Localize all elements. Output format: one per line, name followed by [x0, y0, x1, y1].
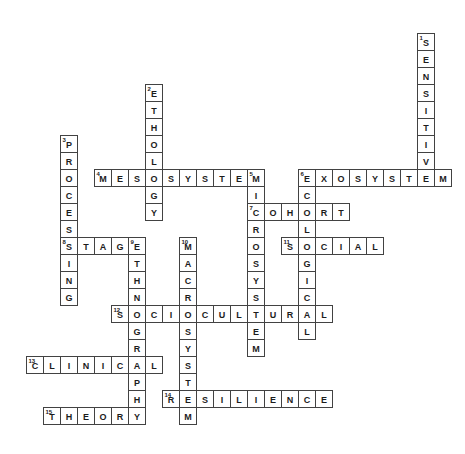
- grid-cell-r20c9[interactable]: T: [179, 373, 197, 391]
- grid-cell-r21c6[interactable]: H: [128, 390, 146, 408]
- grid-cell-r15c2[interactable]: G: [60, 288, 78, 306]
- grid-cell-r16c5[interactable]: 12S: [111, 305, 129, 323]
- grid-cell-r16c11[interactable]: U: [213, 305, 231, 323]
- grid-cell-r8c8[interactable]: S: [162, 169, 180, 187]
- grid-cell-r16c13[interactable]: T: [247, 305, 265, 323]
- grid-cell-r0c23[interactable]: 1S: [417, 33, 435, 51]
- grid-cell-r21c10[interactable]: S: [196, 390, 214, 408]
- grid-cell-r18c9[interactable]: Y: [179, 339, 197, 357]
- grid-cell-r22c6[interactable]: Y: [128, 407, 146, 425]
- grid-cell-r19c6[interactable]: A: [128, 356, 146, 374]
- grid-cell-r21c15[interactable]: N: [281, 390, 299, 408]
- grid-cell-r5c23[interactable]: T: [417, 118, 435, 136]
- grid-cell-r8c9[interactable]: Y: [179, 169, 197, 187]
- grid-cell-r17c6[interactable]: G: [128, 322, 146, 340]
- grid-cell-r7c23[interactable]: V: [417, 152, 435, 170]
- grid-cell-r8c23[interactable]: E: [417, 169, 435, 187]
- grid-cell-r16c10[interactable]: C: [196, 305, 214, 323]
- grid-cell-r10c14[interactable]: O: [264, 203, 282, 221]
- grid-cell-r8c11[interactable]: T: [213, 169, 231, 187]
- grid-cell-r13c9[interactable]: A: [179, 254, 197, 272]
- grid-cell-r8c17[interactable]: X: [315, 169, 333, 187]
- grid-cell-r15c13[interactable]: S: [247, 288, 265, 306]
- grid-cell-r19c3[interactable]: N: [77, 356, 95, 374]
- grid-cell-r9c13[interactable]: I: [247, 186, 265, 204]
- grid-cell-r3c7[interactable]: 2E: [145, 84, 163, 102]
- grid-cell-r22c3[interactable]: E: [77, 407, 95, 425]
- grid-cell-r21c16[interactable]: C: [298, 390, 316, 408]
- grid-cell-r21c8[interactable]: 14R: [162, 390, 180, 408]
- grid-cell-r8c6[interactable]: S: [128, 169, 146, 187]
- grid-cell-r13c6[interactable]: T: [128, 254, 146, 272]
- grid-cell-r7c7[interactable]: L: [145, 152, 163, 170]
- grid-cell-r8c24[interactable]: M: [434, 169, 452, 187]
- grid-cell-r19c1[interactable]: L: [43, 356, 61, 374]
- grid-cell-r19c2[interactable]: I: [60, 356, 78, 374]
- grid-cell-r11c16[interactable]: L: [298, 220, 316, 238]
- grid-cell-r8c7[interactable]: O: [145, 169, 163, 187]
- grid-cell-r9c16[interactable]: C: [298, 186, 316, 204]
- grid-cell-r19c7[interactable]: L: [145, 356, 163, 374]
- grid-cell-r8c16[interactable]: 6E: [298, 169, 316, 187]
- grid-cell-r8c4[interactable]: 4M: [94, 169, 112, 187]
- grid-cell-r12c17[interactable]: C: [315, 237, 333, 255]
- grid-cell-r4c23[interactable]: I: [417, 101, 435, 119]
- grid-cell-r12c5[interactable]: G: [111, 237, 129, 255]
- grid-cell-r16c7[interactable]: C: [145, 305, 163, 323]
- grid-cell-r11c2[interactable]: S: [60, 220, 78, 238]
- grid-cell-r10c13[interactable]: 7C: [247, 203, 265, 221]
- grid-cell-r12c4[interactable]: A: [94, 237, 112, 255]
- grid-cell-r19c9[interactable]: S: [179, 356, 197, 374]
- grid-cell-r12c13[interactable]: O: [247, 237, 265, 255]
- grid-cell-r16c14[interactable]: U: [264, 305, 282, 323]
- grid-cell-r17c13[interactable]: E: [247, 322, 265, 340]
- grid-cell-r21c17[interactable]: E: [315, 390, 333, 408]
- grid-cell-r14c13[interactable]: Y: [247, 271, 265, 289]
- grid-cell-r12c3[interactable]: T: [77, 237, 95, 255]
- grid-cell-r16c8[interactable]: I: [162, 305, 180, 323]
- grid-cell-r6c23[interactable]: I: [417, 135, 435, 153]
- grid-cell-r15c16[interactable]: C: [298, 288, 316, 306]
- grid-cell-r21c13[interactable]: I: [247, 390, 265, 408]
- grid-cell-r14c2[interactable]: N: [60, 271, 78, 289]
- grid-cell-r12c19[interactable]: A: [349, 237, 367, 255]
- grid-cell-r12c18[interactable]: I: [332, 237, 350, 255]
- grid-cell-r3c23[interactable]: S: [417, 84, 435, 102]
- grid-cell-r6c2[interactable]: 3P: [60, 135, 78, 153]
- grid-cell-r21c12[interactable]: L: [230, 390, 248, 408]
- grid-cell-r15c6[interactable]: N: [128, 288, 146, 306]
- grid-cell-r16c15[interactable]: R: [281, 305, 299, 323]
- grid-cell-r18c6[interactable]: R: [128, 339, 146, 357]
- grid-cell-r19c4[interactable]: I: [94, 356, 112, 374]
- grid-cell-r19c5[interactable]: C: [111, 356, 129, 374]
- grid-cell-r2c23[interactable]: N: [417, 67, 435, 85]
- grid-cell-r17c16[interactable]: L: [298, 322, 316, 340]
- grid-cell-r1c23[interactable]: E: [417, 50, 435, 68]
- grid-cell-r12c6[interactable]: 9E: [128, 237, 146, 255]
- grid-cell-r16c17[interactable]: L: [315, 305, 333, 323]
- grid-cell-r12c9[interactable]: 10M: [179, 237, 197, 255]
- grid-cell-r8c20[interactable]: Y: [366, 169, 384, 187]
- grid-cell-r8c21[interactable]: S: [383, 169, 401, 187]
- grid-cell-r11c13[interactable]: R: [247, 220, 265, 238]
- grid-cell-r10c2[interactable]: E: [60, 203, 78, 221]
- grid-cell-r19c0[interactable]: 13C: [26, 356, 44, 374]
- grid-cell-r12c20[interactable]: L: [366, 237, 384, 255]
- grid-cell-r22c1[interactable]: 15T: [43, 407, 61, 425]
- grid-cell-r10c16[interactable]: O: [298, 203, 316, 221]
- grid-cell-r22c9[interactable]: M: [179, 407, 197, 425]
- grid-cell-r14c16[interactable]: I: [298, 271, 316, 289]
- grid-cell-r15c9[interactable]: R: [179, 288, 197, 306]
- grid-cell-r12c15[interactable]: 11S: [281, 237, 299, 255]
- grid-cell-r14c9[interactable]: C: [179, 271, 197, 289]
- grid-cell-r13c16[interactable]: G: [298, 254, 316, 272]
- grid-cell-r16c12[interactable]: L: [230, 305, 248, 323]
- grid-cell-r17c9[interactable]: S: [179, 322, 197, 340]
- grid-cell-r22c5[interactable]: R: [111, 407, 129, 425]
- grid-cell-r8c13[interactable]: 5M: [247, 169, 265, 187]
- grid-cell-r5c7[interactable]: H: [145, 118, 163, 136]
- grid-cell-r20c6[interactable]: P: [128, 373, 146, 391]
- grid-cell-r9c2[interactable]: C: [60, 186, 78, 204]
- grid-cell-r18c13[interactable]: M: [247, 339, 265, 357]
- grid-cell-r22c2[interactable]: H: [60, 407, 78, 425]
